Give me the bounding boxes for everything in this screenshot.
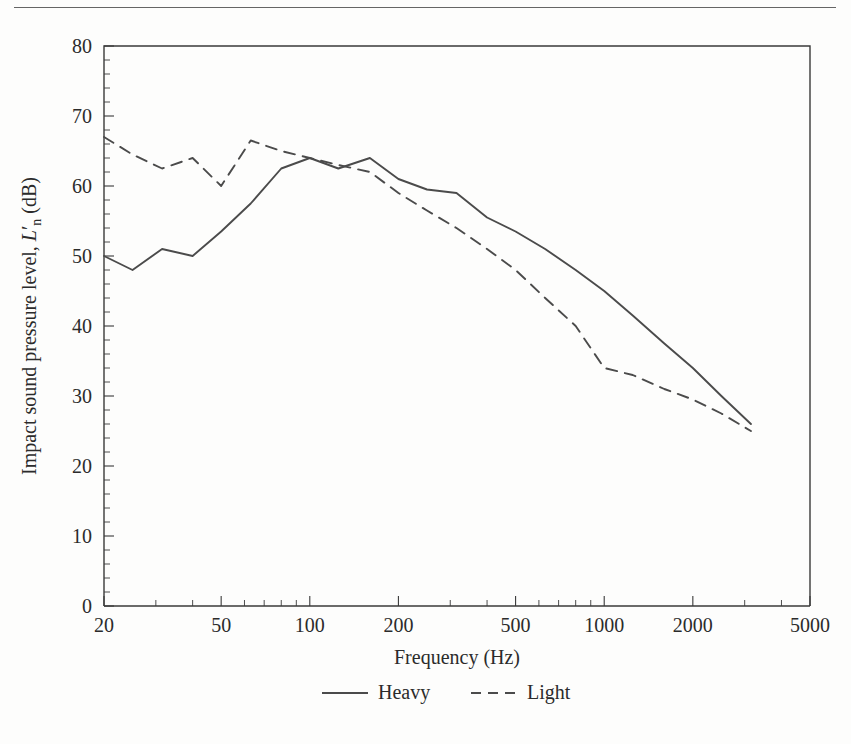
plot-frame xyxy=(104,46,810,606)
y-axis-title-suffix: (dB) xyxy=(18,177,41,219)
y-tick-label: 10 xyxy=(72,525,92,547)
y-tick-label: 30 xyxy=(72,385,92,407)
x-axis-minor-ticks xyxy=(156,600,782,606)
x-axis-title: Frequency (Hz) xyxy=(394,646,520,669)
data-series-group xyxy=(104,137,751,431)
y-tick-label: 40 xyxy=(72,315,92,337)
y-tick-label: 0 xyxy=(82,595,92,617)
page-canvas: 01020304050607080 2050100200500100020005… xyxy=(0,0,851,744)
legend-label-heavy: Heavy xyxy=(378,681,430,704)
y-axis-title-subscript: n xyxy=(29,219,44,226)
impact-sound-pressure-chart: 01020304050607080 2050100200500100020005… xyxy=(0,0,851,744)
x-tick-label: 2000 xyxy=(673,614,713,636)
x-tick-label: 50 xyxy=(211,614,231,636)
x-axis-major-ticks xyxy=(104,596,810,606)
y-tick-label: 50 xyxy=(72,245,92,267)
svg-text:Impact sound pressure level, L: Impact sound pressure level, L′n (dB) xyxy=(18,177,44,475)
chart-legend: HeavyLight xyxy=(322,681,571,704)
x-tick-label: 100 xyxy=(295,614,325,636)
y-tick-label: 70 xyxy=(72,105,92,127)
x-tick-label: 1000 xyxy=(584,614,624,636)
y-tick-label: 60 xyxy=(72,175,92,197)
figure-container: 01020304050607080 2050100200500100020005… xyxy=(0,0,851,744)
x-axis-tick-labels: 2050100200500100020005000 xyxy=(94,614,830,636)
series-line-light xyxy=(104,137,751,431)
y-axis-title-prefix: Impact sound pressure level, xyxy=(18,241,41,475)
series-line-heavy xyxy=(104,158,751,424)
x-tick-label: 20 xyxy=(94,614,114,636)
y-axis-tick-labels: 01020304050607080 xyxy=(72,35,92,617)
x-tick-label: 200 xyxy=(383,614,413,636)
x-tick-label: 5000 xyxy=(790,614,830,636)
y-axis-title: Impact sound pressure level, L′n (dB) xyxy=(18,177,44,475)
y-axis-title-symbol: L xyxy=(18,230,40,242)
y-tick-label: 20 xyxy=(72,455,92,477)
y-tick-label: 80 xyxy=(72,35,92,57)
legend-label-light: Light xyxy=(527,681,571,704)
x-tick-label: 500 xyxy=(501,614,531,636)
